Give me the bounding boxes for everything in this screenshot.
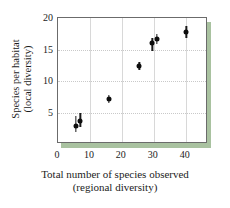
y-axis-title-line2: (local diversity) (22, 46, 33, 113)
gridline-horizontal (58, 81, 206, 82)
y-axis-title-line1: Species per habitat (10, 39, 21, 118)
data-point (150, 41, 155, 46)
data-point (78, 118, 83, 123)
y-axis-tick-labels: 5101520 (32, 17, 53, 143)
scatter-plot-figure: 5101520 010203040 Species per habitat (l… (0, 0, 230, 208)
data-point (107, 97, 112, 102)
gridline-horizontal (58, 50, 206, 51)
figure-shadow-bottom (61, 143, 211, 148)
x-tick-label: 10 (84, 149, 94, 160)
x-tick-label: 30 (148, 149, 158, 160)
y-tick-label: 10 (43, 75, 53, 86)
y-axis-title: Species per habitat (local diversity) (4, 17, 34, 143)
x-tick-label: 0 (55, 149, 60, 160)
data-point (73, 124, 78, 129)
x-axis-title-line2: (regional diversity) (0, 181, 230, 194)
x-axis-tick-labels: 010203040 (57, 149, 207, 163)
y-tick-label: 5 (48, 106, 53, 117)
data-point (154, 36, 159, 41)
y-tick-label: 15 (43, 43, 53, 54)
data-point (137, 63, 142, 68)
x-axis-title: Total number of species observed (region… (0, 168, 230, 194)
y-tick-label: 20 (43, 12, 53, 23)
x-axis-title-line1: Total number of species observed (41, 168, 189, 180)
gridline-vertical (90, 18, 91, 142)
x-tick-label: 40 (180, 149, 190, 160)
plot-area (57, 17, 207, 143)
data-point (184, 29, 189, 34)
gridline-vertical (122, 18, 123, 142)
x-tick-label: 20 (116, 149, 126, 160)
